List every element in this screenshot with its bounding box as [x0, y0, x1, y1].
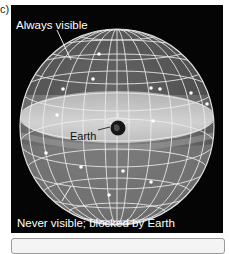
- always-visible-label: Always visible: [16, 19, 88, 31]
- celestial-sphere-panel: Always visible Earth Never visible; bloc…: [11, 5, 223, 233]
- caption-box: [11, 238, 225, 254]
- celestial-sphere-diagram: [11, 5, 223, 233]
- panel-label: c): [0, 3, 9, 15]
- never-visible-label: Never visible; blocked by Earth: [17, 217, 175, 229]
- earth-label: Earth: [70, 130, 96, 142]
